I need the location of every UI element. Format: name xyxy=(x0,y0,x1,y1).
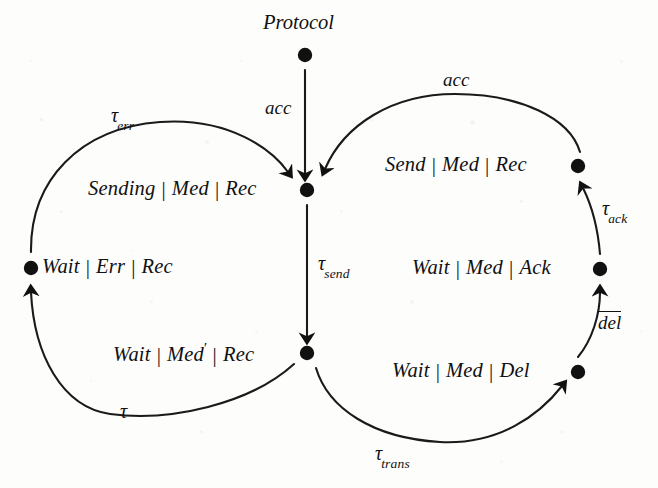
state-separator: | xyxy=(503,258,519,279)
state-component: Med xyxy=(466,256,503,278)
state-wait-med-del-dot[interactable] xyxy=(571,365,585,379)
state-separator: | xyxy=(483,361,499,382)
state-wait-med-ack-dot[interactable] xyxy=(593,262,607,276)
state-sending-med-rec-text: Sending|Med|Rec xyxy=(88,178,257,199)
state-wait-medprime-rec-text: Wait|Med′|Rec xyxy=(113,341,254,365)
state-component: Rec xyxy=(223,343,254,365)
tau-subscript: ack xyxy=(608,211,627,226)
state-component: Med xyxy=(172,177,209,199)
edge-tau-trans-label: τtrans xyxy=(375,443,411,467)
state-wait-err-rec-text: Wait|Err|Rec xyxy=(42,256,173,277)
state-component: Med xyxy=(446,359,483,381)
edge-tau-label: τ xyxy=(120,401,127,421)
state-separator: | xyxy=(80,257,96,278)
state-separator: | xyxy=(450,258,466,279)
state-separator: | xyxy=(151,345,167,366)
state-separator: | xyxy=(155,179,171,200)
state-separator: | xyxy=(430,361,446,382)
tau-subscript: trans xyxy=(381,456,410,471)
state-component: Del xyxy=(499,359,529,381)
tau-subscript: send xyxy=(324,266,350,281)
state-component: Err xyxy=(96,255,125,277)
edge-acc-protocol-label: acc xyxy=(265,98,291,117)
edge-del-complement xyxy=(578,292,600,357)
state-separator: | xyxy=(426,155,442,176)
state-component: Rec xyxy=(142,255,173,277)
edge-del-complement-label: del xyxy=(598,311,621,332)
state-component: Send xyxy=(385,153,426,175)
state-component: Wait xyxy=(113,343,151,365)
state-component: Wait xyxy=(392,359,430,381)
edge-tau-send-label: τsend xyxy=(318,253,351,277)
tau-symbol: τ xyxy=(120,400,127,422)
state-wait-medprime-rec-dot[interactable] xyxy=(300,346,314,360)
state-component: Rec xyxy=(225,177,256,199)
diagram-svg xyxy=(0,0,658,488)
state-send-med-rec-dot[interactable] xyxy=(571,159,585,173)
tau-subscript: err xyxy=(117,118,134,133)
state-send-med-rec-text: Send|Med|Rec xyxy=(385,154,527,175)
state-separator: | xyxy=(479,155,495,176)
node-dot-layer xyxy=(24,48,607,379)
edge-tau-ack-label: τack xyxy=(602,198,629,222)
state-sending-med-rec-dot[interactable] xyxy=(300,183,314,197)
state-wait-err-rec-dot[interactable] xyxy=(24,261,38,275)
state-component: Med xyxy=(442,153,479,175)
state-component: Wait xyxy=(412,256,450,278)
state-wait-med-del-text: Wait|Med|Del xyxy=(392,360,530,381)
state-component: Sending xyxy=(88,177,155,199)
state-wait-med-ack-text: Wait|Med|Ack xyxy=(412,257,551,278)
protocol-node-dot[interactable] xyxy=(298,48,312,62)
protocol-node-text: Protocol xyxy=(263,12,334,33)
state-component: Med xyxy=(167,343,204,365)
complement-label: del xyxy=(598,311,621,332)
diagram-canvas: ProtocolSending|Med|RecSend|Med|RecWait|… xyxy=(0,0,658,488)
state-separator: | xyxy=(209,179,225,200)
state-component: Wait xyxy=(42,255,80,277)
state-separator: | xyxy=(125,257,141,278)
state-component: Ack xyxy=(519,256,550,278)
edge-acc-send-label: acc xyxy=(443,70,469,89)
state-component: Rec xyxy=(496,153,527,175)
state-separator: | xyxy=(207,345,223,366)
edge-tau-err-label: τerr xyxy=(111,105,135,129)
edge-tau-ack xyxy=(583,188,600,254)
